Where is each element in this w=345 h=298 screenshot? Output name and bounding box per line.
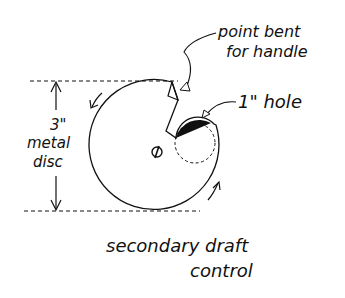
size-label-line3: disc bbox=[33, 155, 63, 170]
size-label-line1: 3" bbox=[50, 118, 66, 133]
bent-point-handle bbox=[168, 82, 178, 100]
handle-label-line1: point bent bbox=[218, 24, 300, 40]
rotation-arrow-bottom-icon bbox=[208, 183, 218, 200]
diagram-title-line1: secondary draft bbox=[106, 237, 248, 255]
hole-label: 1" hole bbox=[238, 93, 302, 111]
metal-disc bbox=[89, 79, 219, 209]
hole-leader-line bbox=[206, 102, 236, 115]
handle-leader-line bbox=[184, 33, 216, 88]
handle-leader-arrowhead bbox=[180, 82, 190, 91]
size-label-line2: metal bbox=[27, 136, 70, 151]
diagram-title-line2: control bbox=[190, 262, 253, 280]
handle-label-line2: for handle bbox=[226, 44, 308, 60]
